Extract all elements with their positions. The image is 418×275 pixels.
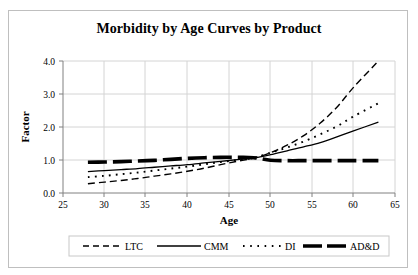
series-line-di	[88, 103, 379, 177]
x-tick-label: 30	[99, 200, 109, 210]
x-tick-labels: 25 30 35 40 45 50 55 60 65	[58, 200, 400, 210]
x-tick-label: 25	[58, 200, 68, 210]
y-tick-labels: 4.0 3.0 2.0 1.0 0.0	[43, 57, 55, 199]
series-line-ltc	[88, 61, 379, 184]
x-axis-title: Age	[220, 214, 238, 226]
y-tick-label: 4.0	[43, 57, 55, 67]
y-tick-label: 1.0	[43, 156, 55, 166]
x-tick-label: 60	[348, 200, 358, 210]
y-tick-label: 0.0	[43, 189, 55, 199]
legend-label-addd: AD&D	[350, 241, 379, 252]
x-axis-ticks	[63, 193, 395, 197]
chart-plot-area: 4.0 3.0 2.0 1.0 0.0 25 30 35 40 45 50 55…	[9, 11, 409, 269]
x-tick-label: 50	[265, 200, 275, 210]
series-line-cmm	[88, 122, 379, 172]
x-tick-label: 55	[307, 200, 317, 210]
series-curves	[88, 61, 379, 184]
legend-label-cmm: CMM	[204, 241, 229, 252]
y-axis-title: Factor	[19, 111, 31, 142]
legend-label-di: DI	[285, 241, 296, 252]
x-tick-label: 40	[182, 200, 192, 210]
x-tick-label: 65	[390, 200, 400, 210]
chart-container: Morbidity by Age Curves by Product	[8, 10, 408, 268]
y-tick-label: 2.0	[43, 123, 55, 133]
x-tick-label: 45	[224, 200, 234, 210]
legend-label-ltc: LTC	[125, 241, 143, 252]
x-tick-label: 35	[140, 200, 150, 210]
y-axis-ticks	[59, 61, 63, 193]
y-tick-label: 3.0	[43, 90, 55, 100]
chart-legend: LTC CMM DI AD&D	[69, 236, 389, 256]
